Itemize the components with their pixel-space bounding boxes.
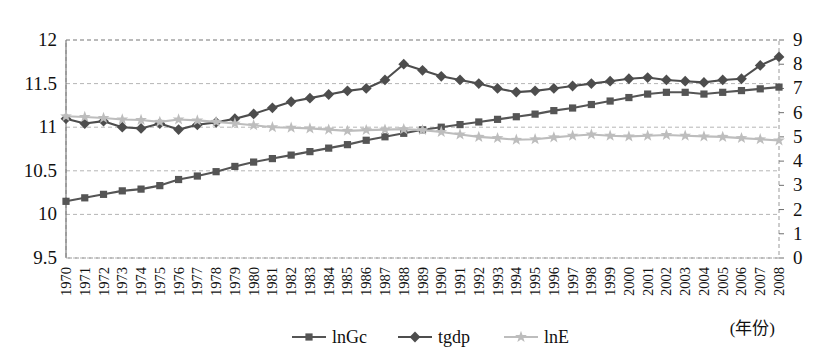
x-axis-tick-label: 1994 (508, 266, 524, 296)
x-axis-tick-label: 1975 (152, 267, 168, 296)
x-axis-tick-label: 1981 (264, 267, 280, 296)
data-point-marker-square (475, 118, 482, 125)
legend-item-lnGc[interactable]: lnGc (292, 327, 367, 347)
series-line (66, 87, 779, 201)
data-point-marker-square (607, 97, 614, 104)
x-axis-tick-label: 1988 (396, 267, 412, 296)
data-point-marker-square (381, 133, 388, 140)
data-point-marker-diamond (455, 75, 466, 86)
left-axis-tick-label: 9.5 (33, 247, 57, 268)
data-series-group (60, 52, 785, 205)
series-lnGc (62, 83, 782, 204)
data-point-marker-square (100, 191, 107, 198)
x-axis-tick-label: 1972 (96, 267, 112, 296)
data-point-marker-square (494, 116, 501, 123)
right-axis-tick-label: 2 (793, 199, 803, 220)
data-point-marker-star (604, 129, 616, 140)
data-point-marker-diamond (699, 77, 710, 88)
data-point-marker-star (492, 132, 504, 143)
right-axis-tick-label: 8 (793, 53, 803, 74)
data-point-marker-square (682, 89, 689, 96)
data-point-marker-square (644, 90, 651, 97)
data-point-marker-diamond (323, 89, 334, 100)
legend-label: lnE (544, 327, 569, 347)
data-point-marker-square (700, 90, 707, 97)
data-point-marker-star (473, 131, 485, 142)
x-axis-tick-label: 1974 (133, 266, 149, 296)
x-axis-tick-label: 1976 (171, 267, 187, 296)
data-point-marker-star (736, 132, 748, 143)
x-axis-tick-label: 1987 (377, 267, 393, 296)
x-axis-tick-label: 1997 (565, 267, 581, 296)
x-axis-tick-label: 1985 (339, 267, 355, 296)
legend-item-tgdp[interactable]: tgdp (398, 327, 470, 347)
x-axis-tick-label: 1977 (189, 267, 205, 296)
data-point-marker-square (625, 94, 632, 101)
x-axis-tick-label: 1993 (490, 267, 506, 296)
data-point-marker-diamond (267, 102, 278, 113)
x-axis-tick-label: 2001 (640, 267, 656, 296)
data-point-marker-square (305, 333, 312, 340)
data-point-marker-star (661, 129, 673, 140)
data-point-marker-diamond (605, 76, 616, 87)
data-point-marker-star (267, 121, 279, 132)
data-point-marker-star (754, 133, 766, 144)
chart-container: 9.51010.51111.512 0123456789 19701971197… (0, 0, 826, 362)
x-axis-tick-label: 1992 (471, 267, 487, 296)
data-point-marker-star (548, 131, 560, 142)
data-point-marker-diamond (173, 124, 184, 135)
x-axis-tick-label: 2002 (658, 267, 674, 296)
data-point-marker-square (719, 89, 726, 96)
x-axis-tick-label: 1990 (433, 267, 449, 296)
x-axis-tick-label: 2005 (715, 267, 731, 296)
data-point-marker-diamond (305, 93, 316, 104)
x-axis-title: (年份) (730, 319, 775, 338)
data-point-marker-diamond (530, 85, 541, 96)
data-point-marker-star (248, 119, 260, 130)
data-point-marker-square (550, 107, 557, 114)
left-axis-ticklabels: 9.51010.51111.512 (24, 29, 57, 268)
data-point-marker-diamond (117, 122, 128, 133)
data-point-marker-square (569, 104, 576, 111)
data-point-marker-star (454, 128, 466, 139)
data-point-marker-star (623, 130, 635, 141)
data-point-marker-diamond (642, 72, 653, 83)
data-point-marker-square (269, 155, 276, 162)
data-point-marker-diamond (417, 65, 428, 76)
right-axis-tick-label: 3 (793, 174, 803, 195)
data-point-marker-square (663, 89, 670, 96)
x-axis-tick-label: 1995 (527, 267, 543, 296)
data-point-marker-square (513, 113, 520, 120)
right-axis-tick-label: 9 (793, 29, 803, 50)
data-point-marker-diamond (680, 76, 691, 87)
data-point-marker-square (363, 137, 370, 144)
right-axis-tick-label: 0 (793, 247, 803, 268)
x-axis-ticklabels: 1970197119721973197419751976197719781979… (58, 266, 787, 296)
left-axis-tick-label: 12 (38, 29, 57, 50)
data-point-marker-square (194, 172, 201, 179)
data-point-marker-square (288, 152, 295, 159)
left-axis-tick-label: 11 (39, 116, 57, 137)
legend-label: tgdp (438, 327, 470, 347)
x-axis-tick-label: 1970 (58, 267, 74, 296)
x-axis-tick-label: 1991 (452, 267, 468, 296)
data-point-marker-diamond (286, 96, 297, 107)
legend-item-lnE[interactable]: lnE (504, 327, 569, 347)
data-point-marker-square (588, 101, 595, 108)
data-point-marker-diamond (492, 83, 503, 94)
line-chart: 9.51010.51111.512 0123456789 19701971197… (0, 0, 826, 362)
x-axis-tick-label: 2007 (752, 267, 768, 296)
data-point-marker-star (417, 124, 429, 135)
left-axis-tick-label: 11.5 (24, 73, 57, 94)
data-point-marker-square (775, 83, 782, 90)
data-point-marker-star (529, 133, 541, 144)
right-axis-tick-label: 5 (793, 126, 803, 147)
x-axis-tick-label: 1996 (546, 267, 562, 296)
data-point-marker-diamond (774, 52, 785, 63)
data-point-marker-star (698, 130, 710, 141)
data-point-marker-square (250, 158, 257, 165)
data-point-marker-star (642, 129, 654, 140)
x-axis-tick-label: 1983 (302, 267, 318, 296)
data-point-marker-square (156, 182, 163, 189)
data-point-marker-star (173, 113, 185, 124)
